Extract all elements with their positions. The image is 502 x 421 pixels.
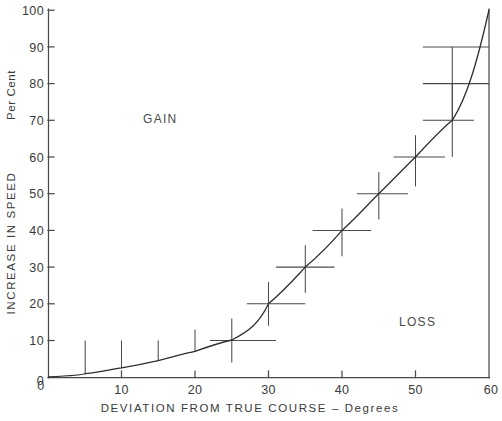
y-tick-label-10: 10	[29, 334, 44, 348]
region-label-loss: LOSS	[399, 315, 436, 329]
y-tick-label-90: 90	[29, 41, 44, 55]
y-axis-title: INCREASE IN SPEED	[5, 172, 17, 315]
chart-figure: 100 90 80 70 60 50 40 30 20 10 0 0 10 20…	[0, 0, 502, 421]
y-tick-label-20: 20	[29, 297, 44, 311]
x-axis-ticks	[122, 371, 416, 378]
y-axis-tick-labels: 100 90 80 70 60 50 40 30 20 10 0	[22, 4, 44, 388]
x-tick-label-60: 60	[484, 383, 499, 397]
y-tick-label-100: 100	[22, 4, 44, 18]
x-tick-label-30: 30	[261, 383, 276, 397]
x-tick-label-0: 0	[37, 379, 44, 393]
x-axis-tick-labels: 0 10 20 30 40 50 60	[37, 379, 498, 397]
y-tick-label-80: 80	[29, 77, 44, 91]
y-axis-title-units: Per Cent	[5, 70, 17, 120]
y-tick-label-30: 30	[29, 261, 44, 275]
x-tick-label-10: 10	[114, 383, 129, 397]
y-tick-label-50: 50	[29, 187, 44, 201]
y-tick-label-70: 70	[29, 114, 44, 128]
y-tick-label-60: 60	[29, 151, 44, 165]
x-tick-label-50: 50	[408, 383, 423, 397]
x-tick-label-20: 20	[188, 383, 203, 397]
y-tick-label-40: 40	[29, 224, 44, 238]
speed-deviation-chart: 100 90 80 70 60 50 40 30 20 10 0 0 10 20…	[0, 0, 502, 421]
x-tick-label-40: 40	[335, 383, 350, 397]
y-axis-title-group: INCREASE IN SPEED Per Cent	[5, 70, 17, 315]
x-axis-title: DEVIATION FROM TRUE COURSE – Degrees	[101, 402, 400, 414]
region-label-gain: GAIN	[143, 112, 178, 126]
